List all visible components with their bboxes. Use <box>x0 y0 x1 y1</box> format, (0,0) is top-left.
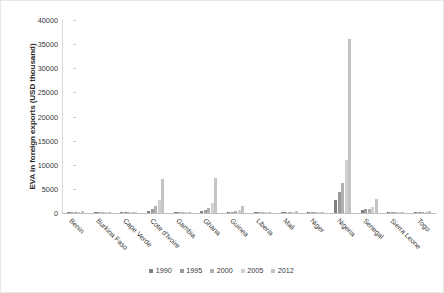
x-axis-labels: BeninBurkina FasoCape VerdeCote d'Ivoire… <box>62 214 436 274</box>
bar <box>428 211 431 213</box>
y-tick-label: 35000 <box>18 40 58 49</box>
bar <box>375 199 378 213</box>
y-tick-label: 20000 <box>18 112 58 121</box>
bar <box>214 178 217 213</box>
legend-item[interactable]: 2000 <box>210 266 233 275</box>
legend-label: 1995 <box>186 266 202 275</box>
chart-legend: 19901995200020052012 <box>0 266 443 275</box>
x-tick-label: Ghana <box>201 217 222 238</box>
legend-swatch-icon <box>241 269 245 273</box>
bar-group <box>196 20 223 213</box>
bar <box>241 206 244 213</box>
bar <box>295 211 298 213</box>
x-tick-label: Mali <box>281 217 296 232</box>
bar-group <box>356 20 383 213</box>
y-tick-label: 25000 <box>18 88 58 97</box>
bar <box>348 39 351 213</box>
bar-group <box>142 20 169 213</box>
bar-group <box>62 20 89 213</box>
bar <box>161 179 164 213</box>
legend-swatch-icon <box>180 269 184 273</box>
x-tick-label: Niger <box>308 217 325 234</box>
legend-label: 2005 <box>247 266 263 275</box>
bar-group <box>115 20 142 213</box>
bar <box>401 212 404 213</box>
legend-item[interactable]: 1995 <box>180 266 203 275</box>
legend-item[interactable]: 2012 <box>271 266 294 275</box>
y-axis-ticks: 0500010000150002000025000300003500040000 <box>14 20 58 214</box>
y-tick-label: 30000 <box>18 64 58 73</box>
x-tick-label: Senegal <box>362 217 386 241</box>
x-tick-label: Nigeria <box>335 217 356 238</box>
legend-label: 2012 <box>278 266 294 275</box>
bar-group <box>249 20 276 213</box>
bar-group <box>276 20 303 213</box>
x-tick-label: Guinea <box>228 217 250 239</box>
bar <box>268 212 271 213</box>
bar-group <box>409 20 436 213</box>
legend-swatch-icon <box>210 269 214 273</box>
legend-item[interactable]: 2005 <box>241 266 264 275</box>
bar-group <box>329 20 356 213</box>
y-tick-label: 10000 <box>18 160 58 169</box>
x-tick-label: Benin <box>68 217 86 235</box>
bar-groups <box>62 20 436 213</box>
bar-group <box>302 20 329 213</box>
bar <box>321 212 324 213</box>
bar-group <box>169 20 196 213</box>
bar <box>81 211 84 213</box>
bar <box>188 212 191 213</box>
legend-swatch-icon <box>271 269 275 273</box>
y-tick-label: 15000 <box>18 136 58 145</box>
bar-group <box>222 20 249 213</box>
y-tick-label: 0 <box>18 209 58 218</box>
legend-label: 2000 <box>217 266 233 275</box>
legend-swatch-icon <box>149 269 153 273</box>
bar-group <box>383 20 410 213</box>
x-tick-label: Gambia <box>175 217 198 240</box>
x-tick-label: Liberia <box>255 217 275 237</box>
bar-group <box>89 20 116 213</box>
y-tick-label: 40000 <box>18 16 58 25</box>
legend-label: 1990 <box>156 266 172 275</box>
bar <box>134 212 137 213</box>
bar <box>108 212 111 213</box>
y-tick-label: 5000 <box>18 184 58 193</box>
x-tick-label: Togo <box>415 217 431 233</box>
legend-item[interactable]: 1990 <box>149 266 172 275</box>
